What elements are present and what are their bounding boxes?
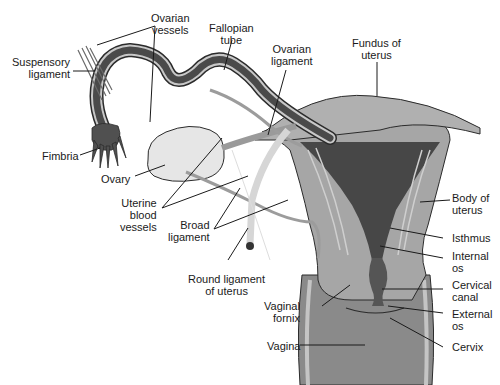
label-fallopian-tube: Fallopian tube — [209, 22, 254, 46]
label-body-of-uterus: Body of uterus — [452, 192, 489, 216]
label-fundus-of-uterus: Fundus of uterus — [352, 37, 401, 61]
label-uterine-blood-vessels: Uterine blood vessels — [120, 197, 157, 233]
label-ovarian-vessels: Ovarian vessels — [151, 12, 190, 36]
label-fimbria: Fimbria — [42, 150, 79, 162]
label-ovarian-ligament: Ovarian ligament — [271, 43, 313, 67]
label-cervix: Cervix — [452, 341, 483, 353]
label-internal-os: Internal os — [452, 250, 489, 274]
uterus-illustration — [0, 0, 500, 385]
fimbria-shape — [92, 123, 126, 168]
label-external-os: External os — [452, 308, 492, 332]
label-vaginal-fornix: Vaginal fornix — [264, 300, 300, 324]
label-suspensory-ligament: Suspensory ligament — [12, 56, 70, 80]
label-ovary: Ovary — [101, 173, 130, 185]
anatomy-diagram: Ovarian vessels Fallopian tube Suspensor… — [0, 0, 500, 385]
label-isthmus: Isthmus — [452, 232, 491, 244]
label-cervical-canal: Cervical canal — [452, 279, 492, 303]
round-ligament-shape — [250, 130, 288, 244]
label-round-ligament: Round ligament of uterus — [188, 273, 265, 297]
label-vagina: Vagina — [267, 340, 300, 352]
label-broad-ligament: Broad ligament — [168, 219, 210, 243]
